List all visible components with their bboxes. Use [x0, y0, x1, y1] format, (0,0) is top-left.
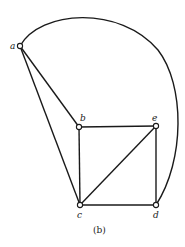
node-e: [153, 123, 158, 128]
node-b: [76, 124, 81, 129]
graph-diagram: a b e c d (b): [0, 0, 185, 247]
label-a: a: [10, 41, 15, 51]
edge-b-c: [79, 127, 80, 205]
edge-e-c: [80, 126, 156, 205]
edge-a-c: [20, 46, 80, 205]
label-e: e: [152, 113, 157, 123]
node-d: [153, 202, 158, 207]
node-a: [17, 43, 22, 48]
figure-caption: (b): [93, 225, 106, 235]
label-b: b: [80, 113, 86, 123]
label-c: c: [77, 210, 82, 220]
edge-a-b: [20, 46, 79, 127]
node-c: [77, 202, 82, 207]
edge-b-e: [79, 126, 156, 127]
edge-a-d: [20, 18, 178, 205]
label-d: d: [153, 210, 159, 220]
